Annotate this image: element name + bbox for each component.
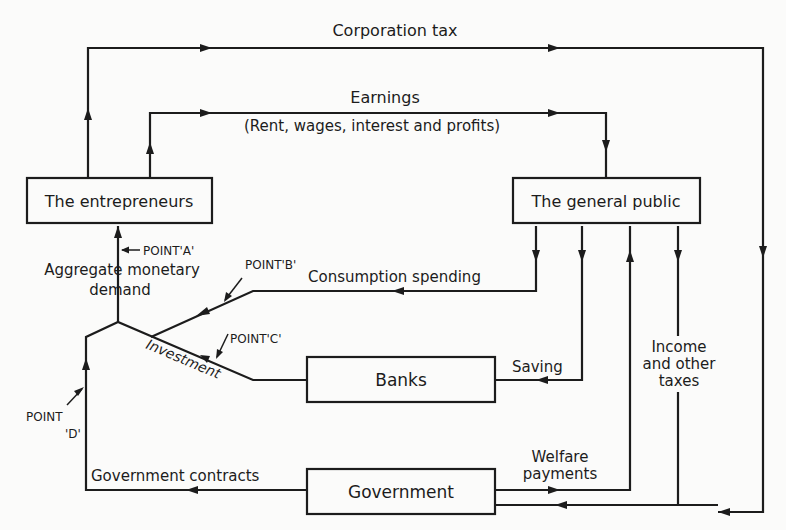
- arrow-up-icon: [114, 226, 122, 238]
- arrow-up-icon: [74, 387, 84, 396]
- entrepreneurs-node: The entrepreneurs: [27, 178, 212, 223]
- entrepreneurs-label: The entrepreneurs: [44, 192, 193, 211]
- point-d-marker: POINT 'D': [26, 387, 84, 441]
- aggregate-demand-flow: Aggregate monetary demand: [44, 226, 200, 322]
- earnings-flow: Earnings (Rent, wages, interest and prof…: [146, 88, 610, 178]
- income-taxes-label-2: and other: [643, 355, 717, 373]
- government-contracts-label: Government contracts: [91, 467, 260, 485]
- arrow-down-icon: [674, 250, 682, 262]
- arrow-right-icon: [548, 109, 560, 117]
- earnings-detail-label: (Rent, wages, interest and profits): [244, 117, 500, 135]
- aggregate-demand-label-1: Aggregate monetary: [44, 261, 200, 279]
- arrow-down-icon: [216, 349, 223, 359]
- aggregate-demand-label-2: demand: [89, 281, 151, 299]
- arrow-down-icon: [578, 250, 586, 262]
- arrow-right-icon: [548, 486, 560, 494]
- banks-label: Banks: [375, 370, 427, 390]
- arrow-left-icon: [196, 307, 210, 316]
- welfare-label-2: payments: [523, 465, 598, 483]
- arrow-left-icon: [555, 501, 567, 509]
- income-taxes-label-1: Income: [651, 338, 706, 356]
- point-d-label-1: POINT: [26, 410, 63, 424]
- point-b-marker: POINT'B': [224, 258, 296, 302]
- arrow-right-icon: [548, 44, 560, 52]
- saving-flow: Saving: [495, 226, 586, 384]
- government-label: Government: [348, 482, 454, 502]
- arrow-up-icon: [146, 142, 154, 154]
- earnings-label: Earnings: [350, 88, 419, 107]
- arrow-left-icon: [121, 247, 129, 254]
- arrow-left-icon: [536, 376, 548, 384]
- consumption-label: Consumption spending: [308, 268, 481, 286]
- arrow-left-icon: [718, 508, 730, 516]
- arrow-down-icon: [602, 140, 610, 152]
- general-public-label: The general public: [531, 192, 681, 211]
- arrow-up-icon: [626, 250, 634, 262]
- arrow-right-icon: [200, 44, 212, 52]
- income-taxes-label-3: taxes: [659, 372, 700, 390]
- arrow-up-icon: [82, 358, 90, 370]
- point-d-label-2: 'D': [65, 427, 81, 441]
- corporation-tax-label: Corporation tax: [332, 21, 457, 40]
- circular-flow-diagram: Corporation tax Earnings (Rent, wages, i…: [0, 0, 786, 530]
- point-a-marker: POINT'A': [121, 244, 194, 258]
- arrow-down-icon: [759, 246, 767, 258]
- arrow-right-icon: [200, 109, 212, 117]
- arrow-up-icon: [84, 108, 92, 120]
- banks-node: Banks: [307, 357, 495, 402]
- welfare-label-1: Welfare: [532, 448, 589, 466]
- point-a-label: POINT'A': [143, 244, 194, 258]
- arrow-down-icon: [532, 250, 540, 262]
- investment-label: Investment: [144, 336, 224, 382]
- general-public-node: The general public: [513, 178, 700, 223]
- arrow-left-icon: [392, 287, 404, 295]
- point-b-label: POINT'B': [245, 258, 296, 272]
- government-node: Government: [307, 469, 495, 514]
- saving-label: Saving: [512, 358, 563, 376]
- government-contracts-flow: Government contracts: [82, 358, 307, 494]
- arrow-left-icon: [186, 486, 198, 494]
- consumption-flow: Consumption spending: [151, 226, 540, 337]
- point-c-marker: POINT'C': [216, 332, 282, 359]
- point-c-label: POINT'C': [230, 332, 282, 346]
